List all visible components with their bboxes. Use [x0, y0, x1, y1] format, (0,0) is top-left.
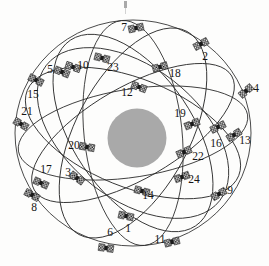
satellite-label-12: 12: [121, 86, 133, 98]
earth-disc: [108, 109, 167, 168]
satellite-icon: [98, 243, 114, 252]
scan-artifact-mark: [124, 1, 127, 8]
satellite-icon: [193, 37, 210, 50]
satellite-label-1: 1: [125, 222, 131, 234]
satellite-label-3: 3: [65, 166, 71, 178]
satellite-label-2: 2: [202, 50, 208, 62]
satellite-label-19: 19: [174, 107, 186, 119]
satellite-label-7: 7: [121, 21, 127, 33]
satellite-label-8: 8: [31, 201, 37, 213]
satellite-icon: [33, 177, 50, 189]
satellite-label-4: 4: [253, 82, 259, 94]
satellite-icon: [24, 188, 41, 201]
satellite-label-16: 16: [210, 137, 222, 149]
satellite-icon: [164, 237, 180, 247]
satellite-icon: [131, 81, 147, 93]
satellite-label-5: 5: [47, 63, 53, 75]
satellite-label-14: 14: [142, 189, 154, 201]
satellite-icon: [69, 171, 85, 185]
satellite-label-11: 11: [154, 233, 165, 245]
satellite-label-6: 6: [107, 226, 113, 238]
constellation-figure: 123456789101112131415161718192021222324: [0, 0, 269, 266]
satellite-icon: [184, 118, 201, 130]
satellite-icon: [176, 146, 193, 158]
satellite-label-9: 9: [227, 184, 233, 196]
satellite-label-10: 10: [77, 59, 89, 71]
satellite-label-18: 18: [169, 67, 181, 79]
satellite-label-17: 17: [40, 163, 52, 175]
constellation-canvas: 123456789101112131415161718192021222324: [0, 0, 269, 266]
satellite-label-23: 23: [107, 61, 119, 73]
satellite-label-22: 22: [192, 150, 204, 162]
satellite-label-13: 13: [239, 134, 251, 146]
satellite-label-21: 21: [21, 105, 33, 117]
satellite-label-15: 15: [27, 88, 39, 100]
scan-artifact-tail: [125, 8, 126, 14]
satellite-label-20: 20: [68, 139, 80, 151]
satellite-label-24: 24: [188, 173, 200, 185]
satellite-icon: [79, 142, 95, 151]
